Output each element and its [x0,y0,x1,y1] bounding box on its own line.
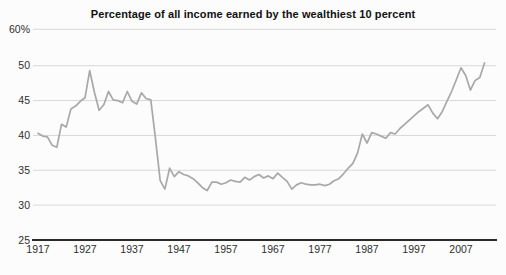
x-axis-tick-label-1957: 1957 [214,243,238,255]
y-axis-tick-label-35: 35 [18,164,30,176]
x-axis-tick-label-1987: 1987 [355,243,379,255]
x-axis-tick-label-1937: 1937 [120,243,144,255]
x-axis-tick-label-1997: 1997 [402,243,426,255]
x-axis-tick-label-1947: 1947 [167,243,191,255]
x-axis-tick-label-1927: 1927 [73,243,97,255]
line-chart: 60%5045403530251917192719371947195719671… [0,0,506,275]
y-axis-tick-label-40: 40 [18,129,30,141]
y-axis-tick-label-50: 50 [18,59,30,71]
chart-container: Percentage of all income earned by the w… [0,0,506,275]
x-axis-tick-label-1967: 1967 [261,243,285,255]
income-share-line [38,63,485,191]
x-axis-tick-label-1917: 1917 [26,243,50,255]
y-axis-tick-label-45: 45 [18,94,30,106]
y-axis-tick-label-60: 60% [9,23,30,35]
x-axis-tick-label-1977: 1977 [308,243,332,255]
y-axis-tick-label-30: 30 [18,199,30,211]
x-axis-tick-label-2007: 2007 [449,243,473,255]
